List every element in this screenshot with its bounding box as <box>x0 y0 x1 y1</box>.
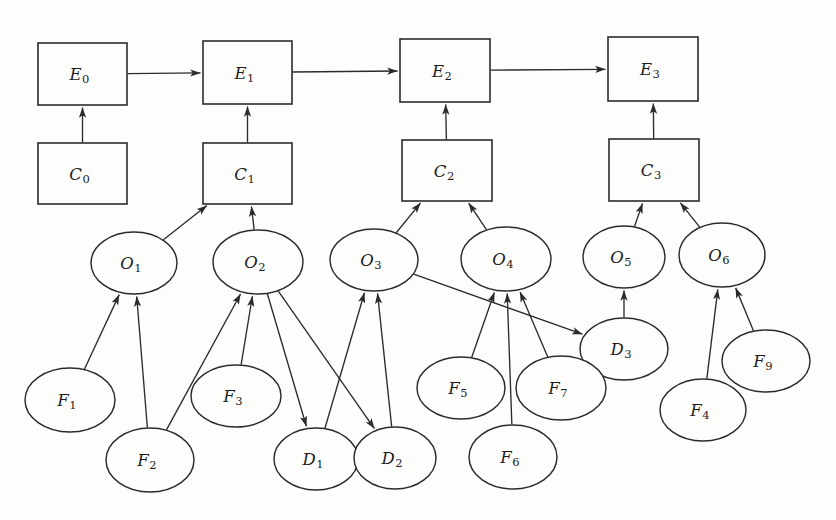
edge-e2-to-e3 <box>491 69 606 70</box>
edge-o2-to-c1 <box>251 206 254 229</box>
edge-d1-to-o3 <box>325 293 364 428</box>
edge-f2-to-o1 <box>137 296 148 427</box>
edge-e1-to-e2 <box>293 71 398 72</box>
node-e0[interactable]: E0 <box>38 43 127 105</box>
edge-f1-to-o1 <box>84 295 119 370</box>
edge-o6-to-c3 <box>680 203 699 227</box>
edge-o1-to-c1 <box>163 206 206 240</box>
node-f7[interactable]: F7 <box>516 356 606 420</box>
node-o1[interactable]: O1 <box>91 232 177 294</box>
node-e1[interactable]: E1 <box>203 41 292 104</box>
node-f4[interactable]: F4 <box>660 379 746 441</box>
diagram-canvas: E0E1E2E3C0C1C2C3O1O2O3O4O5O6D1D2D3F1F2F3… <box>0 0 836 520</box>
node-c1[interactable]: C1 <box>203 143 292 204</box>
edge-f6-to-o4 <box>507 293 512 424</box>
node-d2[interactable]: D2 <box>354 427 436 489</box>
node-o2[interactable]: O2 <box>213 230 303 294</box>
edge-f9-to-o6 <box>736 288 754 331</box>
node-e2[interactable]: E2 <box>400 39 490 102</box>
node-c3[interactable]: C3 <box>609 139 699 201</box>
node-o3[interactable]: O3 <box>330 229 418 291</box>
node-layer: E0E1E2E3C0C1C2C3O1O2O3O4O5O6D1D2D3F1F2F3… <box>25 37 810 492</box>
edge-o2-to-d2 <box>278 291 374 428</box>
node-o5[interactable]: O5 <box>583 226 665 288</box>
node-f5[interactable]: F5 <box>417 357 505 419</box>
node-e3[interactable]: E3 <box>608 37 698 101</box>
node-c2[interactable]: C2 <box>402 140 492 201</box>
node-f9[interactable]: F9 <box>722 330 810 392</box>
edge-f7-to-o4 <box>520 292 548 357</box>
edge-f4-to-o6 <box>707 289 718 378</box>
diagram-svg: E0E1E2E3C0C1C2C3O1O2O3O4O5O6D1D2D3F1F2F3… <box>0 0 836 520</box>
node-f1[interactable]: F1 <box>25 368 115 432</box>
node-c0[interactable]: C0 <box>38 143 127 204</box>
edge-d2-to-o3 <box>378 293 392 426</box>
edge-f3-to-o2 <box>241 296 252 364</box>
node-d1[interactable]: D1 <box>274 428 358 490</box>
edge-e0-to-e1 <box>128 73 201 74</box>
edge-o4-to-c2 <box>469 203 487 230</box>
edge-o3-to-c2 <box>396 203 420 233</box>
edge-o5-to-c3 <box>635 203 643 226</box>
node-o6[interactable]: O6 <box>679 223 765 287</box>
edge-c2-to-e2 <box>446 105 447 140</box>
node-f2[interactable]: F2 <box>106 428 194 492</box>
node-f3[interactable]: F3 <box>191 365 281 427</box>
node-f6[interactable]: F6 <box>469 425 557 489</box>
node-o4[interactable]: O4 <box>461 227 551 291</box>
